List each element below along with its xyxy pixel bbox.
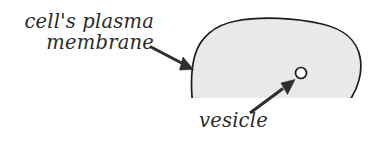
vesicle-label: vesicle	[199, 110, 268, 131]
cell-plasma-membrane-shape	[192, 18, 361, 112]
membrane-arrow	[150, 47, 194, 71]
membrane-label-line-2: membrane	[14, 32, 154, 53]
membrane-label: cell's plasma membrane	[14, 11, 154, 53]
vesicle-circle	[296, 68, 307, 79]
cell-body-group	[192, 18, 361, 112]
cell-diagram-figure: cell's plasma membrane vesicle	[0, 0, 375, 146]
membrane-label-line-1: cell's plasma	[14, 11, 154, 32]
